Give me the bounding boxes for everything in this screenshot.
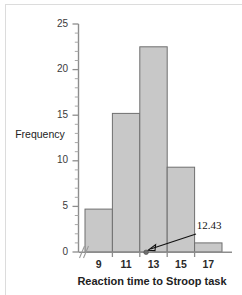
ytick-label-15: 15: [57, 109, 69, 120]
histogram-svg: 0 5 10 15 20 25 9 11 13 15 17: [0, 0, 242, 295]
page-left-rule: [5, 4, 6, 295]
xtick-label-15: 15: [175, 258, 187, 270]
xtick-label-13: 13: [148, 258, 160, 270]
ytick-label-5: 5: [62, 200, 68, 211]
bar-bin-13: [140, 47, 167, 252]
bar-bin-9: [85, 209, 112, 252]
ytick-label-0: 0: [62, 246, 68, 257]
annotation-label: 12.43: [197, 219, 222, 231]
page-top-rule: [5, 4, 242, 5]
bar-bin-11: [112, 113, 139, 252]
histogram-figure: 0 5 10 15 20 25 9 11 13 15 17: [0, 0, 242, 295]
xtick-label-11: 11: [121, 258, 132, 270]
xtick-label-17: 17: [202, 258, 214, 270]
xtick-label-9: 9: [96, 258, 102, 270]
annotation-point-marker: [144, 250, 149, 255]
y-axis-title: Frequency: [15, 128, 65, 140]
ytick-label-10: 10: [57, 154, 69, 165]
ytick-label-25: 25: [57, 18, 69, 29]
bar-bin-17: [195, 243, 222, 252]
ytick-label-20: 20: [57, 63, 69, 74]
x-axis-title: Reaction time to Stroop task: [77, 275, 227, 287]
